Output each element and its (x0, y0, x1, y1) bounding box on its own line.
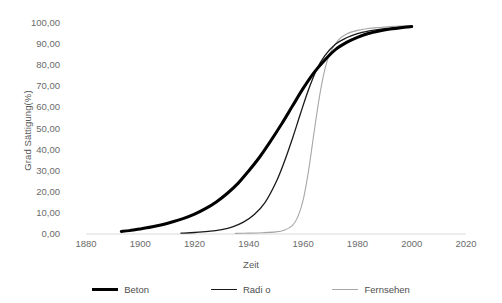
legend-item-beton[interactable]: Beton (92, 284, 149, 295)
legend-item-label: Beton (124, 284, 149, 295)
x-axis-tick-label: 2020 (441, 238, 491, 249)
plot-area (0, 0, 502, 303)
series-layer (121, 26, 411, 234)
legend-line-swatch (92, 288, 118, 291)
x-axis-tick-labels: 18801900192019401960198020002020 (0, 238, 502, 254)
x-axis-tick-label: 1900 (115, 238, 165, 249)
chart-legend: BetonRadi oFernsehen (0, 279, 502, 299)
x-axis-tick-label: 1940 (224, 238, 274, 249)
line-chart: Grad Sättigung(%) 0,0010,0020,0030,0040,… (0, 0, 502, 303)
x-axis-tick-label: 2000 (387, 238, 437, 249)
x-axis-tick-label: 1960 (278, 238, 328, 249)
legend-line-swatch (211, 289, 237, 290)
x-axis-title: Zeit (0, 259, 502, 270)
legend-item-fernsehen[interactable]: Fernsehen (332, 284, 409, 295)
legend-line-swatch (332, 289, 358, 290)
x-axis-tick-label: 1980 (332, 238, 382, 249)
x-axis-tick-label: 1920 (170, 238, 220, 249)
x-axis-tick-label: 1880 (61, 238, 111, 249)
legend-item-label: Fernsehen (364, 284, 409, 295)
legend-item-label: Radi o (243, 284, 270, 295)
legend-item-radi-o[interactable]: Radi o (211, 284, 270, 295)
